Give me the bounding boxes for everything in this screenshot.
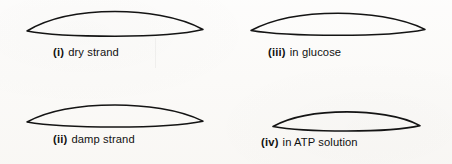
caption-ii: (ii)damp strand [53, 134, 135, 145]
strand-shape-ii [25, 103, 205, 129]
panel-ii: (ii)damp strand [0, 82, 226, 164]
caption-label-iii: in glucose [290, 46, 341, 58]
caption-label-iv: in ATP solution [283, 136, 358, 148]
figure-root: (i)dry strand (iii)in glucose (ii)damp s… [0, 0, 452, 164]
strand-shape-i [25, 10, 205, 38]
caption-i: (i)dry strand [53, 47, 119, 58]
caption-numeral-iii: (iii) [268, 46, 286, 58]
strand-shape-iv [271, 110, 422, 133]
caption-label-ii: damp strand [71, 133, 134, 145]
caption-label-i: dry strand [68, 46, 119, 58]
caption-iv: (iv)in ATP solution [261, 137, 358, 148]
caption-iii: (iii)in glucose [268, 47, 341, 58]
panel-iv: (iv)in ATP solution [226, 82, 452, 164]
caption-numeral-i: (i) [53, 46, 64, 58]
caption-numeral-iv: (iv) [261, 136, 279, 148]
strand-shape-iii [249, 11, 427, 37]
panel-iii: (iii)in glucose [226, 0, 452, 82]
panel-i: (i)dry strand [0, 0, 226, 82]
caption-numeral-ii: (ii) [53, 133, 67, 145]
